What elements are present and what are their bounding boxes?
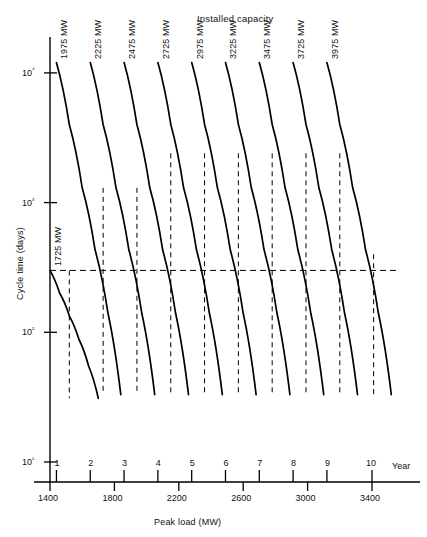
year-tick-label: 10 <box>366 459 376 468</box>
capacity-curve <box>90 63 154 395</box>
chart-figure: Installed capacity Cycle time (days) Pea… <box>0 0 427 537</box>
x-tick-label: 2200 <box>167 494 187 503</box>
capacity-curve <box>192 63 256 395</box>
capacity-curve-label: 1725 MW <box>54 227 63 266</box>
capacity-curve <box>124 63 188 395</box>
year-tick-label: 8 <box>291 459 296 468</box>
capacity-curve-label: 3475 MW <box>263 19 272 58</box>
capacity-curve <box>293 63 357 395</box>
capacity-curve-label: 3725 MW <box>297 19 306 58</box>
year-ticks <box>56 470 372 482</box>
capacity-curve-label: 3225 MW <box>229 19 238 58</box>
capacity-curve <box>327 63 391 395</box>
capacity-curve-label: 3975 MW <box>331 19 340 58</box>
year-tick-label: 5 <box>190 459 195 468</box>
y-tick-label: 10⁴ <box>22 67 35 78</box>
x-tick-label: 1800 <box>102 494 122 503</box>
capacity-curve-label: 2225 MW <box>94 19 103 58</box>
year-tick-label: 9 <box>325 459 330 468</box>
step-connectors <box>69 153 373 398</box>
capacity-curve-label: 2975 MW <box>196 19 205 58</box>
x-tick-label: 1400 <box>38 494 58 503</box>
year-tick-label: 6 <box>223 459 228 468</box>
capacity-curve <box>56 63 120 395</box>
year-tick-label: 1 <box>54 459 59 468</box>
y-tick-label: 10¹ <box>22 456 34 467</box>
x-ticks <box>50 482 372 491</box>
plot-area <box>0 0 427 537</box>
year-tick-label: 7 <box>257 459 262 468</box>
capacity-curve <box>158 63 222 395</box>
capacity-curve-label: 1975 MW <box>60 19 69 58</box>
x-tick-label: 2600 <box>231 494 251 503</box>
x-tick-label: 3400 <box>360 494 380 503</box>
capacity-curve <box>259 63 323 395</box>
y-tick-label: 10² <box>22 326 34 337</box>
capacity-curve-label: 2475 MW <box>128 19 137 58</box>
x-tick-label: 3000 <box>296 494 316 503</box>
year-tick-label: 2 <box>88 459 93 468</box>
capacity-curves <box>50 63 391 399</box>
year-tick-label: 3 <box>122 459 127 468</box>
capacity-curve <box>226 63 290 395</box>
year-tick-label: 4 <box>156 459 161 468</box>
capacity-curve-label: 2725 MW <box>162 19 171 58</box>
axes <box>34 37 420 482</box>
y-tick-label: 10³ <box>22 197 34 208</box>
capacity-curve <box>50 270 98 398</box>
